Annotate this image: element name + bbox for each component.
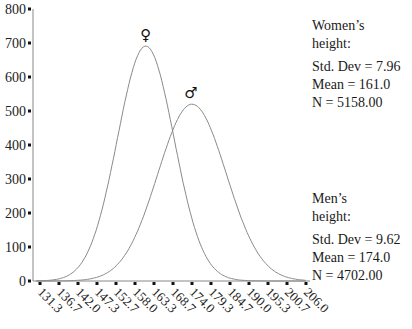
x-tick-mark — [267, 282, 270, 285]
men-mean: Mean = 174.0 — [312, 249, 400, 267]
men-title-line1: Men’s — [312, 190, 400, 208]
men-height-curve — [36, 104, 305, 281]
y-tick-mark — [28, 178, 31, 181]
women-title-line2: height: — [312, 35, 400, 53]
y-tick-mark — [28, 8, 31, 11]
y-tick-label: 600 — [5, 70, 26, 85]
female-symbol-icon: ♀ — [140, 26, 151, 44]
y-tick-label: 0 — [19, 274, 26, 289]
women-height-curve — [36, 46, 305, 281]
y-tick-mark — [28, 246, 31, 249]
x-tick-mark — [305, 282, 308, 285]
x-tick-mark — [115, 282, 118, 285]
women-mean: Mean = 161.0 — [312, 76, 400, 94]
y-tick-label: 700 — [5, 36, 26, 51]
y-tick-label: 400 — [5, 138, 26, 153]
x-tick-mark — [96, 282, 99, 285]
x-tick-mark — [39, 282, 42, 285]
x-tick-mark — [210, 282, 213, 285]
x-tick-mark — [77, 282, 80, 285]
y-tick-mark — [28, 42, 31, 45]
y-tick-label: 100 — [5, 240, 26, 255]
women-title-line1: Women’s — [312, 17, 400, 35]
y-tick-mark — [28, 212, 31, 215]
women-std-dev: Std. Dev = 7.96 — [312, 58, 400, 76]
men-title-line2: height: — [312, 208, 400, 226]
men-std-dev: Std. Dev = 9.62 — [312, 231, 400, 249]
y-tick-mark — [28, 76, 31, 79]
y-tick-mark — [28, 280, 31, 283]
x-tick-mark — [286, 282, 289, 285]
men-n: N = 4702.00 — [312, 267, 400, 285]
y-tick-label: 300 — [5, 172, 26, 187]
y-axis: 0100200300400500600700800 — [5, 2, 33, 289]
women-n: N = 5158.00 — [312, 94, 400, 112]
x-tick-mark — [58, 282, 61, 285]
x-tick-mark — [191, 282, 194, 285]
y-tick-mark — [28, 110, 31, 113]
men-legend-title: Men’s height: — [312, 190, 400, 226]
women-stats-legend: Women’s height: Std. Dev = 7.96 Mean = 1… — [312, 17, 400, 112]
y-tick-label: 500 — [5, 104, 26, 119]
curves — [36, 46, 305, 281]
y-tick-label: 200 — [5, 206, 26, 221]
x-axis: 131.3136.7142.0147.3152.7158.0163.3168.7… — [33, 281, 332, 316]
x-tick-mark — [153, 282, 156, 285]
male-symbol-icon: ♂ — [184, 84, 197, 102]
men-stats-legend: Men’s height: Std. Dev = 9.62 Mean = 174… — [312, 190, 400, 285]
x-tick-mark — [248, 282, 251, 285]
women-legend-title: Women’s height: — [312, 17, 400, 53]
y-tick-mark — [28, 144, 31, 147]
x-tick-mark — [229, 282, 232, 285]
x-tick-mark — [134, 282, 137, 285]
y-tick-label: 800 — [5, 2, 26, 17]
x-tick-mark — [172, 282, 175, 285]
